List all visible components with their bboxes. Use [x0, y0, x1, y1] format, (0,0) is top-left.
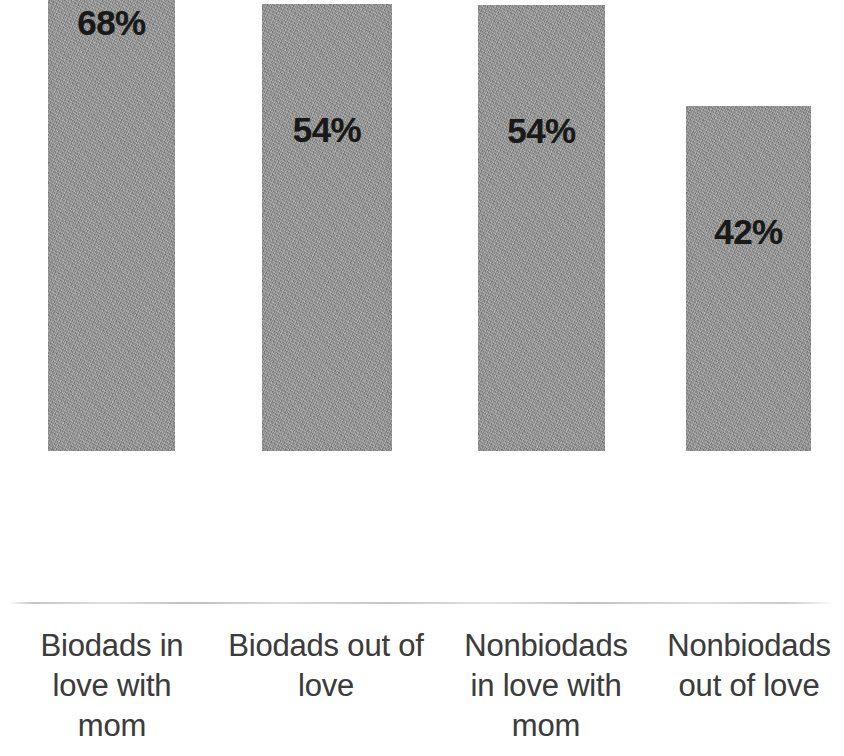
bar-nonbiodads-in-love-with-mom [478, 5, 605, 451]
bar-nonbiodads-out-of-love [686, 106, 811, 451]
category-axis-labels: Biodads in love with mom Biodads out of … [0, 604, 844, 756]
category-label-line: love [218, 666, 434, 706]
value-label-bar-1: 68% [48, 5, 175, 40]
value-label-bar-4: 42% [686, 214, 811, 249]
category-label-line: out of love [654, 666, 844, 706]
category-label-line: Biodads in [14, 626, 210, 666]
category-label-line: in love with [440, 666, 652, 706]
category-label-line: love with [14, 666, 210, 706]
category-label-line: mom [440, 706, 652, 746]
category-label-line: Nonbiodads [440, 626, 652, 666]
category-label-biodads-out-of-love: Biodads out of love [218, 626, 434, 706]
bar-chart: 68% 54% 54% 42% Biodads in love with mom… [0, 0, 844, 756]
category-label-line: Nonbiodads [654, 626, 844, 666]
bar-biodads-in-love-with-mom [48, 0, 175, 451]
plot-area: 68% 54% 54% 42% [0, 0, 844, 604]
category-label-line: mom [14, 706, 210, 746]
bar-biodads-out-of-love [262, 4, 392, 451]
category-label-line: Biodads out of [218, 626, 434, 666]
category-label-biodads-in-love-with-mom: Biodads in love with mom [14, 626, 210, 746]
value-label-bar-2: 54% [262, 112, 392, 147]
category-label-nonbiodads-in-love-with-mom: Nonbiodads in love with mom [440, 626, 652, 746]
value-label-bar-3: 54% [478, 113, 605, 148]
category-label-nonbiodads-out-of-love: Nonbiodads out of love [654, 626, 844, 706]
